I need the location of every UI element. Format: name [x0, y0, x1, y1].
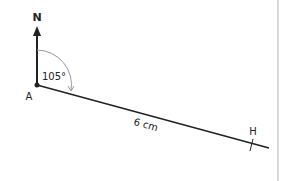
point-a-label: A: [26, 91, 33, 102]
angle-label: 105°: [42, 71, 66, 82]
north-label: N: [32, 11, 41, 24]
point-h-tick: [250, 139, 253, 151]
north-arrow-icon: [33, 26, 41, 36]
point-a: [35, 83, 40, 88]
bearing-diagram: N 105° A 6 cm H: [0, 0, 288, 181]
point-h-label: H: [249, 126, 257, 137]
bearing-line: [37, 85, 269, 148]
right-divider: [277, 0, 279, 181]
distance-label: 6 cm: [133, 116, 160, 133]
